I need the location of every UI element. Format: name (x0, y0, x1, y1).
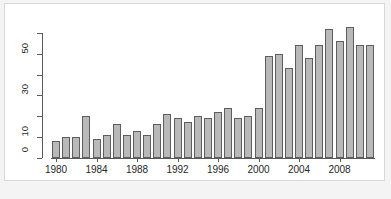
bar (305, 58, 313, 158)
bar (184, 122, 192, 157)
chart-plot-area: 0103050 19801984198819921996200020042008 (5, 4, 386, 182)
bar (356, 45, 364, 157)
x-axis-tick (259, 158, 260, 162)
bar (214, 112, 222, 158)
y-axis-tick-label: 50 (19, 43, 30, 54)
x-axis-tick (97, 158, 98, 162)
bar (275, 54, 283, 158)
y-axis-line (42, 33, 43, 158)
bar (336, 41, 344, 157)
figure-container: 0103050 19801984198819921996200020042008 (0, 0, 391, 199)
bar (265, 56, 273, 158)
bar (295, 45, 303, 157)
x-axis-tick (137, 158, 138, 162)
bar (103, 135, 111, 158)
x-axis-tick-label: 1980 (45, 164, 67, 175)
bar (153, 124, 161, 157)
bar (346, 27, 354, 158)
bar (82, 116, 90, 158)
y-axis-tick (37, 75, 42, 76)
chart-plot-card: 0103050 19801984198819921996200020042008 (4, 3, 385, 181)
x-axis-tick-label: 1988 (126, 164, 148, 175)
bar (234, 118, 242, 157)
y-axis-tick-label: 10 (19, 126, 30, 137)
x-axis-tick-label: 1992 (166, 164, 188, 175)
bar (255, 108, 263, 158)
bar (143, 135, 151, 158)
y-axis-tick (37, 158, 42, 159)
bar (133, 131, 141, 158)
x-axis-tick (340, 158, 341, 162)
bar (174, 118, 182, 157)
bar (123, 135, 131, 158)
bar (285, 68, 293, 157)
y-axis-tick (37, 54, 42, 55)
x-axis-tick (299, 158, 300, 162)
bar (224, 108, 232, 158)
x-axis-tick (178, 158, 179, 162)
bar (62, 137, 70, 158)
bar (194, 116, 202, 158)
x-axis-tick-label: 1996 (207, 164, 229, 175)
bar (204, 118, 212, 157)
x-axis-tick-label: 2004 (288, 164, 310, 175)
x-axis-tick (56, 158, 57, 162)
bar (72, 137, 80, 158)
x-axis-tick-label: 2000 (247, 164, 269, 175)
bar (113, 124, 121, 157)
bar-series (51, 24, 375, 158)
bar (163, 114, 171, 158)
bar (366, 45, 374, 157)
y-axis-tick-label: 0 (19, 147, 30, 152)
bar (315, 45, 323, 157)
y-axis-tick (37, 116, 42, 117)
x-axis-tick-label: 2008 (328, 164, 350, 175)
y-axis-tick (37, 33, 42, 34)
x-axis-tick (218, 158, 219, 162)
y-axis-tick (37, 95, 42, 96)
bar (52, 141, 60, 158)
x-axis-tick-label: 1984 (85, 164, 107, 175)
bar (325, 29, 333, 158)
bar (244, 116, 252, 158)
y-axis-tick (37, 137, 42, 138)
bar (93, 139, 101, 158)
x-axis-line (51, 158, 375, 159)
y-axis-tick-label: 30 (19, 84, 30, 95)
